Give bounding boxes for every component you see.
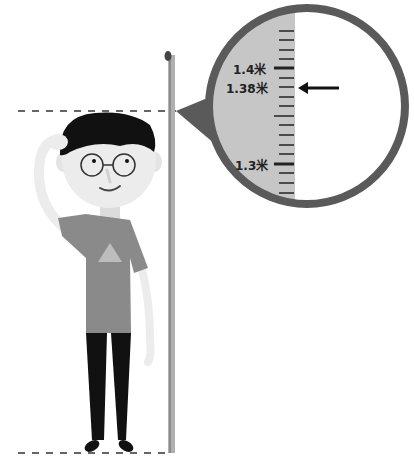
height-diagram: 1.4米 1.38米 1.3米 bbox=[0, 0, 414, 466]
label-1-4m: 1.4米 bbox=[233, 60, 266, 77]
shirt bbox=[58, 214, 148, 333]
tape-measure bbox=[165, 51, 176, 453]
label-1-3m: 1.3米 bbox=[235, 156, 268, 173]
label-1-38m: 1.38米 bbox=[226, 79, 268, 96]
magnifier bbox=[200, 0, 405, 220]
illustration bbox=[0, 0, 414, 466]
person bbox=[39, 112, 162, 454]
